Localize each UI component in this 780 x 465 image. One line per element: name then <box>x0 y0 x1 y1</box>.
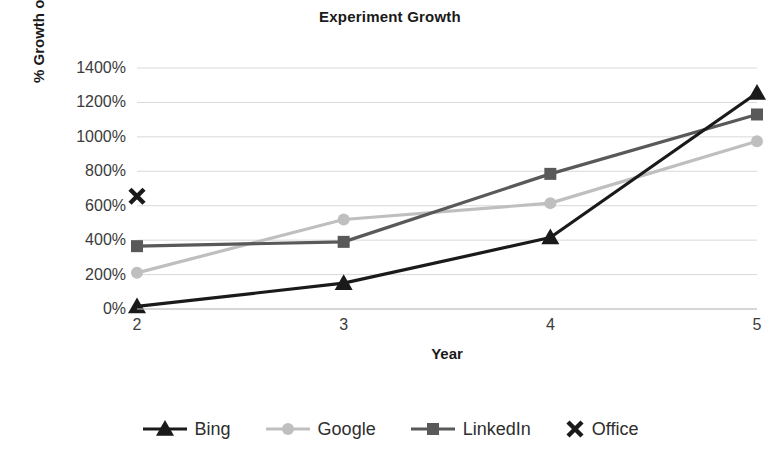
legend-marker-square-icon <box>410 418 456 440</box>
data-point-marker <box>282 423 294 435</box>
data-point-marker <box>338 236 350 248</box>
legend-label: Bing <box>195 419 231 439</box>
legend-label: Office <box>592 419 639 439</box>
series-linkedin <box>131 108 763 252</box>
legend-item-linkedin[interactable]: LinkedIn <box>410 418 531 440</box>
data-point-marker <box>544 168 556 180</box>
gridlines <box>137 68 757 309</box>
series-bing <box>128 84 766 313</box>
data-point-marker <box>541 229 559 245</box>
data-point-marker <box>751 108 763 120</box>
legend-marker-circle-icon <box>265 418 311 440</box>
data-point-marker <box>130 189 144 203</box>
legend-label: Google <box>318 419 376 439</box>
chart-legend: BingGoogleLinkedInOffice <box>0 418 780 440</box>
data-point-marker <box>544 197 556 209</box>
legend-marker-x-icon <box>565 418 585 440</box>
plot-area <box>0 0 780 465</box>
legend-label: LinkedIn <box>463 419 531 439</box>
chart-container: Experiment Growth % Growth over Year 1 0… <box>0 0 780 465</box>
legend-item-google[interactable]: Google <box>265 418 376 440</box>
data-point-marker <box>751 135 763 147</box>
data-point-marker <box>131 267 143 279</box>
legend-marker-triangle-icon <box>142 418 188 440</box>
data-point-marker <box>427 423 439 435</box>
data-point-marker <box>748 84 766 100</box>
series-line-linkedin <box>137 114 757 246</box>
data-point-marker <box>568 422 582 436</box>
x-axis-title: Year <box>137 345 757 362</box>
data-point-marker <box>131 240 143 252</box>
data-point-marker <box>338 213 350 225</box>
series-office <box>130 189 144 203</box>
legend-item-bing[interactable]: Bing <box>142 418 231 440</box>
legend-item-office[interactable]: Office <box>565 418 639 440</box>
